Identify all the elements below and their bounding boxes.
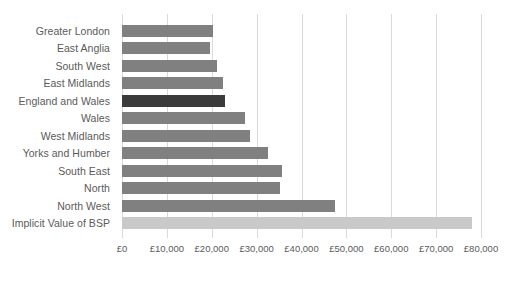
category-label: North West [0, 197, 116, 215]
x-tick-label: £0 [117, 244, 128, 254]
x-tick-label: £20,000 [195, 244, 229, 254]
bar-chart: Greater LondonEast AngliaSouth WestEast … [0, 0, 518, 282]
bar [122, 95, 225, 107]
bar-row [122, 40, 481, 58]
bar [122, 200, 335, 212]
bar [122, 147, 268, 159]
bar [122, 25, 213, 37]
category-label: North [0, 180, 116, 198]
bar-row [122, 162, 481, 180]
bar-row [122, 57, 481, 75]
bar-row [122, 215, 481, 233]
category-label: East Anglia [0, 40, 116, 58]
bar-series [122, 22, 481, 232]
bar [122, 130, 250, 142]
category-label: Implicit Value of BSP [0, 215, 116, 233]
x-tick-label: £40,000 [284, 244, 318, 254]
category-label: Wales [0, 110, 116, 128]
bar-row [122, 75, 481, 93]
bar-row [122, 145, 481, 163]
category-label: Greater London [0, 22, 116, 40]
category-label: England and Wales [0, 92, 116, 110]
x-tick-label: £80,000 [464, 244, 498, 254]
bar [122, 182, 280, 194]
plot-area [122, 14, 481, 238]
bar-row [122, 180, 481, 198]
category-label: Yorks and Humber [0, 145, 116, 163]
x-tick-label: £50,000 [329, 244, 363, 254]
x-tick-label: £60,000 [374, 244, 408, 254]
bar-row [122, 110, 481, 128]
bar-row [122, 197, 481, 215]
bar [122, 60, 217, 72]
bar [122, 77, 223, 89]
bar-row [122, 22, 481, 40]
category-label: West Midlands [0, 127, 116, 145]
category-label: South East [0, 162, 116, 180]
category-axis: Greater LondonEast AngliaSouth WestEast … [0, 22, 116, 232]
x-tick-label: £10,000 [150, 244, 184, 254]
value-axis: £0£10,000£20,000£30,000£40,000£50,000£60… [122, 238, 481, 260]
category-label: East Midlands [0, 75, 116, 93]
bar-row [122, 92, 481, 110]
bar [122, 217, 472, 229]
x-tick-label: £70,000 [419, 244, 453, 254]
bar [122, 112, 245, 124]
category-label: South West [0, 57, 116, 75]
bar-row [122, 127, 481, 145]
gridline [481, 14, 482, 238]
bar [122, 42, 210, 54]
x-tick-label: £30,000 [239, 244, 273, 254]
bar [122, 165, 282, 177]
